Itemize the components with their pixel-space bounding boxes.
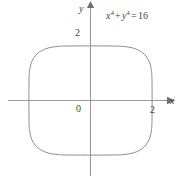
origin-label: 0 [76,104,81,114]
equation-right-hand-side: 16 [138,10,148,21]
plot-canvas [0,0,180,179]
figure-quartic-curve: y x 2 0 2 x4+y4=16 [0,0,180,179]
equation-plus-sign: + [114,10,122,21]
x-axis-tick-label-2: 2 [150,105,155,115]
y-axis-label: y [79,4,83,14]
equation-label: x4+y4=16 [106,11,148,21]
x-axis-label: x [170,96,174,106]
equation-equals-sign: = [130,10,138,21]
y-axis-arrowhead [87,1,94,8]
y-axis-tick-label-2: 2 [75,28,80,38]
